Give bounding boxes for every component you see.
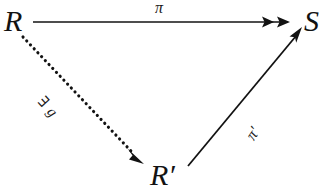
edge-exists-g-line [23, 37, 131, 151]
edge-label-pi: π [155, 0, 163, 16]
node-label-R-prime: R′ [150, 160, 175, 190]
edge-pi-prime-line [188, 36, 296, 166]
commutative-diagram: R S R′ π ∃ g π′ [0, 0, 330, 191]
node-label-R: R [4, 6, 22, 36]
edge-pi [33, 16, 290, 27]
edge-pi-prime [188, 27, 302, 166]
node-label-S: S [304, 6, 319, 36]
